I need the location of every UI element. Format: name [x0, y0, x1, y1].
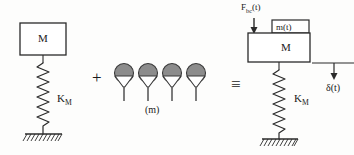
right-spring-subscript: M	[302, 98, 309, 107]
right-spring-stiffness-label: KM	[294, 93, 309, 107]
right-spring-symbol: K	[294, 92, 302, 104]
absorber-mass-label: (m)	[145, 105, 159, 115]
pendulum-absorber-2	[139, 64, 158, 102]
right-mass-label: M	[281, 42, 291, 53]
left-spring-stiffness-label: KM	[57, 93, 72, 107]
diagram-vector-layer	[0, 0, 354, 155]
left-spring-coil	[37, 63, 49, 134]
pendulum-absorber-3	[163, 64, 182, 102]
displacement-indicator	[312, 63, 354, 80]
applied-force-arrow	[251, 18, 258, 34]
diagram-canvas: M KM + (m) ≡ Fbc(t) m(t) M KM δ(t)	[0, 0, 354, 155]
right-ground-hatching	[260, 139, 298, 146]
left-ground-hatching	[23, 134, 62, 141]
right-top-mass-label: m(t)	[276, 23, 292, 32]
pendulum-absorber-1	[115, 64, 134, 102]
plus-operator: +	[92, 69, 102, 86]
force-time-arg: (t)	[252, 2, 261, 12]
left-mass-label: M	[38, 33, 48, 44]
right-spring-coil	[273, 70, 285, 139]
right-mass-block	[248, 33, 310, 62]
left-spring-subscript: M	[65, 98, 72, 107]
pendulum-absorber-4	[187, 64, 206, 102]
equivalence-operator: ≡	[231, 76, 241, 93]
applied-force-label: Fbc(t)	[241, 3, 260, 14]
left-spring-symbol: K	[57, 92, 65, 104]
displacement-label: δ(t)	[326, 83, 340, 93]
pendulum-absorber-group	[115, 64, 206, 102]
